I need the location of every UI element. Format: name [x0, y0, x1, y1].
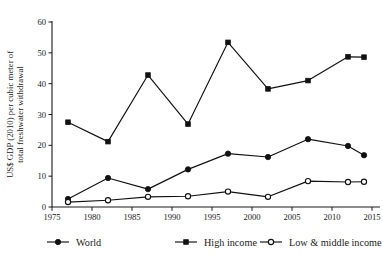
data-point-marker — [265, 154, 270, 159]
legend-label: Low & middle income — [289, 237, 382, 248]
data-point-marker — [346, 55, 351, 60]
series-low-middle-income — [65, 179, 366, 205]
data-point-marker — [305, 179, 310, 184]
y-tick-label: 20 — [37, 140, 46, 150]
legend-entry-world: World — [47, 237, 101, 248]
series-line — [68, 42, 364, 141]
y-tick-label: 40 — [37, 79, 46, 89]
data-point-marker — [305, 136, 310, 141]
legend-label: High income — [204, 237, 257, 248]
series-world — [65, 136, 366, 201]
data-point-marker — [266, 87, 271, 92]
x-tick-label: 2000 — [243, 212, 260, 222]
y-tick-label: 0 — [42, 202, 46, 212]
legend-entry-high-income: High income — [175, 237, 257, 248]
y-tick-label: 10 — [37, 171, 46, 181]
chart-legend: WorldHigh incomeLow & middle income — [47, 237, 382, 248]
data-point-marker — [185, 167, 190, 172]
x-tick-label: 1985 — [123, 212, 140, 222]
data-point-marker — [146, 73, 151, 78]
y-tick-label: 50 — [37, 48, 46, 58]
y-axis-label-line-1: US$ GDP (2010) per cubic meter of — [5, 51, 15, 178]
data-point-marker — [226, 40, 231, 45]
data-series — [65, 40, 366, 205]
x-tick-label: 2005 — [283, 212, 300, 222]
line-chart: US$ GDP (2010) per cubic meter oftotal f… — [0, 0, 383, 259]
legend-label: World — [76, 237, 101, 248]
data-point-marker — [265, 194, 270, 199]
data-point-marker — [362, 55, 367, 60]
data-point-marker — [361, 153, 366, 158]
data-point-marker — [105, 198, 110, 203]
x-tick-label: 1995 — [203, 212, 220, 222]
x-axis-ticks: 197519801985199019952000200520102015 — [43, 207, 380, 222]
series-line — [68, 181, 364, 202]
data-point-marker — [145, 186, 150, 191]
legend-marker-filled-square-icon — [184, 240, 189, 245]
x-tick-label: 1990 — [163, 212, 180, 222]
y-axis-label: US$ GDP (2010) per cubic meter oftotal f… — [5, 51, 25, 178]
x-tick-label: 2015 — [363, 212, 380, 222]
data-point-marker — [185, 194, 190, 199]
data-point-marker — [66, 120, 71, 125]
data-point-marker — [345, 179, 350, 184]
series-line — [68, 139, 364, 199]
y-axis-ticks: 0102030405060 — [37, 17, 52, 212]
y-axis-label-line-2: total freshwater withdrawal — [15, 66, 25, 163]
series-high-income — [66, 40, 367, 144]
x-tick-label: 2010 — [323, 212, 340, 222]
data-point-marker — [105, 175, 110, 180]
data-point-marker — [225, 189, 230, 194]
axis-spine — [52, 21, 380, 207]
x-tick-label: 1980 — [83, 212, 100, 222]
y-tick-label: 60 — [37, 17, 46, 27]
data-point-marker — [106, 139, 111, 144]
axis-lines — [52, 21, 380, 207]
legend-marker-open-circle-icon — [268, 239, 273, 244]
chart-figure: US$ GDP (2010) per cubic meter oftotal f… — [0, 0, 383, 259]
legend-marker-filled-circle-icon — [55, 239, 60, 244]
data-point-marker — [65, 199, 70, 204]
y-tick-label: 30 — [37, 110, 46, 120]
legend-entry-low-middle-income: Low & middle income — [260, 237, 382, 248]
data-point-marker — [345, 143, 350, 148]
data-point-marker — [225, 151, 230, 156]
data-point-marker — [306, 78, 311, 83]
data-point-marker — [361, 179, 366, 184]
data-point-marker — [186, 122, 191, 127]
data-point-marker — [145, 194, 150, 199]
x-tick-label: 1975 — [43, 212, 60, 222]
